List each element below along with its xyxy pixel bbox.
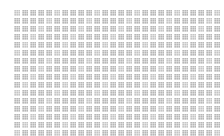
grid-tile [118, 82, 124, 88]
grid-tile [110, 82, 116, 88]
grid-tile [102, 42, 108, 48]
grid-tile [206, 34, 212, 40]
grid-tile [190, 58, 196, 64]
grid-tile [70, 82, 76, 88]
grid-tile [126, 98, 132, 104]
grid-tile [166, 58, 172, 64]
grid-tile [86, 34, 92, 40]
grid-tile [134, 10, 140, 16]
grid-tile [78, 106, 84, 112]
grid-tile [134, 42, 140, 48]
grid-tile [206, 42, 212, 48]
grid-tile [54, 114, 60, 120]
grid-tile [78, 34, 84, 40]
grid-tile [134, 50, 140, 56]
grid-tile [30, 90, 36, 96]
grid-tile [198, 66, 204, 72]
grid-tile [30, 58, 36, 64]
grid-tile [214, 106, 220, 112]
grid-tile [70, 114, 76, 120]
grid-tile [102, 130, 108, 136]
grid-tile [62, 26, 68, 32]
grid-tile [182, 122, 188, 128]
grid-tile [182, 130, 188, 136]
grid-tile [206, 106, 212, 112]
grid-tile [174, 50, 180, 56]
grid-tile [142, 98, 148, 104]
grid-tile [70, 26, 76, 32]
grid-tile [102, 50, 108, 56]
grid-tile [182, 98, 188, 104]
grid-tile [206, 122, 212, 128]
grid-tile [62, 90, 68, 96]
grid-tile [182, 90, 188, 96]
grid-tile [102, 114, 108, 120]
grid-tile [158, 98, 164, 104]
grid-tile [142, 34, 148, 40]
grid-tile [46, 42, 52, 48]
grid-tile [190, 82, 196, 88]
grid-tile [158, 130, 164, 136]
grid-tile [166, 50, 172, 56]
grid-tile [86, 58, 92, 64]
grid-tile [38, 18, 44, 24]
grid-tile [150, 74, 156, 80]
grid-tile [30, 114, 36, 120]
grid-tile [110, 98, 116, 104]
grid-tile [142, 58, 148, 64]
grid-tile [86, 26, 92, 32]
grid-tile [94, 130, 100, 136]
grid-tile [46, 90, 52, 96]
grid-tile [126, 90, 132, 96]
grid-tile [110, 34, 116, 40]
grid-tile [38, 82, 44, 88]
grid-tile [22, 34, 28, 40]
grid-tile [38, 42, 44, 48]
grid-tile [70, 58, 76, 64]
grid-tile [174, 74, 180, 80]
grid-tile [134, 74, 140, 80]
grid-tile [102, 66, 108, 72]
grid-tile [22, 122, 28, 128]
grid-tile [206, 18, 212, 24]
grid-tile [62, 34, 68, 40]
grid-tile [118, 130, 124, 136]
grid-tile [70, 106, 76, 112]
grid-tile [214, 26, 220, 32]
grid-tile [214, 82, 220, 88]
grid-tile [62, 66, 68, 72]
grid-tile [62, 58, 68, 64]
grid-tile [22, 98, 28, 104]
grid-tile [198, 42, 204, 48]
grid-tile [46, 26, 52, 32]
grid-tile [102, 90, 108, 96]
grid-tile [150, 122, 156, 128]
grid-tile [214, 90, 220, 96]
grid-tile [190, 122, 196, 128]
grid-tile [166, 82, 172, 88]
grid-tile [198, 82, 204, 88]
grid-tile [214, 122, 220, 128]
grid-tile [54, 18, 60, 24]
grid-tile [214, 74, 220, 80]
grid-tile [198, 106, 204, 112]
grid-tile [70, 50, 76, 56]
grid-tile [182, 106, 188, 112]
grid-tile [94, 114, 100, 120]
grid-tile [22, 58, 28, 64]
grid-tile [78, 66, 84, 72]
grid-tile [150, 130, 156, 136]
grid-tile [142, 66, 148, 72]
grid-tile [14, 58, 20, 64]
grid-tile [182, 66, 188, 72]
grid-tile [214, 66, 220, 72]
grid-tile [206, 58, 212, 64]
grid-tile [22, 106, 28, 112]
grid-tile [190, 50, 196, 56]
grid-tile [86, 98, 92, 104]
grid-tile [62, 106, 68, 112]
grid-tile [206, 98, 212, 104]
grid-tile [174, 98, 180, 104]
grid-tile [118, 74, 124, 80]
grid-tile [22, 114, 28, 120]
